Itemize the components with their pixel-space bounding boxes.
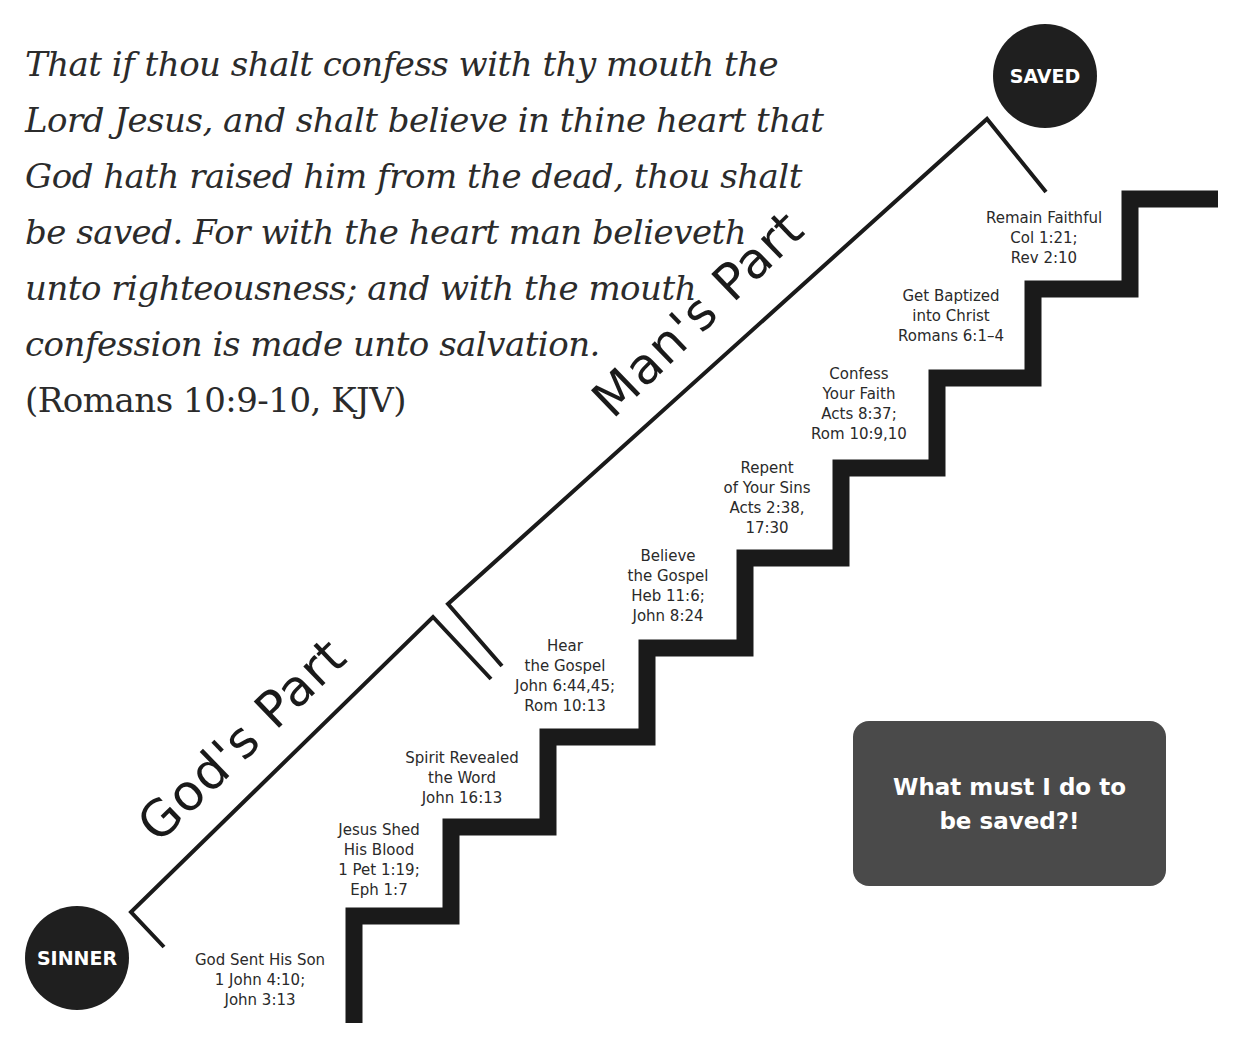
step-get-baptized: Get Baptized into Christ Romans 6:1–4 (898, 286, 1004, 346)
step-reference: Rom 10:13 (515, 696, 615, 716)
step-title: Repent (723, 458, 810, 478)
step-hear-gospel: Hear the Gospel John 6:44,45; Rom 10:13 (515, 636, 615, 716)
step-believe-gospel: Believe the Gospel Heb 11:6; John 8:24 (628, 546, 709, 626)
step-title: Hear (515, 636, 615, 656)
step-god-sent-son: God Sent His Son 1 John 4:10; John 3:13 (195, 950, 325, 1010)
step-reference: 17:30 (723, 518, 810, 538)
step-reference: John 3:13 (195, 990, 325, 1010)
saved-badge: SAVED (993, 24, 1097, 128)
step-confess-faith: Confess Your Faith Acts 8:37; Rom 10:9,1… (811, 364, 907, 444)
step-reference: 1 Pet 1:19; (338, 860, 419, 880)
step-jesus-shed-blood: Jesus Shed His Blood 1 Pet 1:19; Eph 1:7 (338, 820, 419, 900)
step-reference: Rev 2:10 (986, 248, 1102, 268)
callout-line: What must I do to (893, 770, 1126, 804)
step-title: of Your Sins (723, 478, 810, 498)
step-reference: 1 John 4:10; (195, 970, 325, 990)
question-callout: What must I do to be saved?! (853, 721, 1166, 886)
step-title: Get Baptized (898, 286, 1004, 306)
step-remain-faithful: Remain Faithful Col 1:21; Rev 2:10 (986, 208, 1102, 268)
sinner-badge: SINNER (25, 906, 129, 1010)
step-title: Jesus Shed (338, 820, 419, 840)
step-title: into Christ (898, 306, 1004, 326)
step-reference: Romans 6:1–4 (898, 326, 1004, 346)
step-reference: Acts 2:38, (723, 498, 810, 518)
step-reference: Rom 10:9,10 (811, 424, 907, 444)
step-title: Believe (628, 546, 709, 566)
step-repent: Repent of Your Sins Acts 2:38, 17:30 (723, 458, 810, 538)
step-spirit-revealed-word: Spirit Revealed the Word John 16:13 (405, 748, 518, 808)
step-title: Confess (811, 364, 907, 384)
step-title: His Blood (338, 840, 419, 860)
step-reference: John 16:13 (405, 788, 518, 808)
step-title: Your Faith (811, 384, 907, 404)
step-title: God Sent His Son (195, 950, 325, 970)
step-title: the Gospel (628, 566, 709, 586)
step-reference: John 8:24 (628, 606, 709, 626)
step-title: Spirit Revealed (405, 748, 518, 768)
step-title: the Gospel (515, 656, 615, 676)
callout-line: be saved?! (893, 804, 1126, 838)
saved-label: SAVED (1010, 65, 1081, 87)
staircase (354, 199, 1218, 1023)
step-title: Remain Faithful (986, 208, 1102, 228)
step-reference: Heb 11:6; (628, 586, 709, 606)
step-title: the Word (405, 768, 518, 788)
step-reference: Eph 1:7 (338, 880, 419, 900)
step-reference: John 6:44,45; (515, 676, 615, 696)
sinner-label: SINNER (37, 947, 117, 969)
step-reference: Col 1:21; (986, 228, 1102, 248)
step-reference: Acts 8:37; (811, 404, 907, 424)
